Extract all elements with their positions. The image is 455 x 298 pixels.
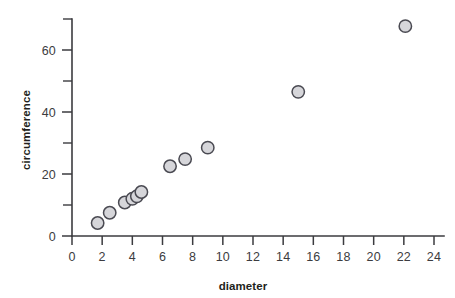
- data-point: [179, 153, 191, 165]
- x-tick-label-12: 12: [246, 250, 260, 264]
- x-tick-label-6: 6: [159, 250, 166, 264]
- x-tick-label-20: 20: [367, 250, 381, 264]
- data-point: [135, 186, 147, 198]
- y-tick-label-0: 0: [49, 230, 56, 244]
- x-tick-label-18: 18: [336, 250, 350, 264]
- data-point: [202, 141, 214, 153]
- scatter-plot-figure: 0204060 024681012141618202224 diameter c…: [0, 0, 455, 298]
- y-axis-tick-labels: 0204060: [42, 44, 56, 244]
- plot-canvas: 0204060 024681012141618202224 diameter c…: [0, 0, 455, 298]
- x-tick-label-0: 0: [68, 250, 75, 264]
- data-point: [399, 20, 411, 32]
- x-tick-label-2: 2: [99, 250, 106, 264]
- y-tick-label-60: 60: [42, 44, 56, 58]
- data-point: [104, 207, 116, 219]
- x-axis-tick-labels: 024681012141618202224: [68, 250, 441, 264]
- x-tick-label-10: 10: [216, 250, 230, 264]
- x-axis-title: diameter: [219, 280, 268, 292]
- y-tick-label-20: 20: [42, 168, 56, 182]
- x-tick-label-4: 4: [129, 250, 136, 264]
- data-point: [292, 86, 304, 98]
- x-axis-ticks: [72, 236, 434, 245]
- x-tick-label-14: 14: [276, 250, 290, 264]
- x-tick-label-16: 16: [306, 250, 320, 264]
- x-tick-label-22: 22: [397, 250, 411, 264]
- data-point-markers: [91, 20, 411, 229]
- x-tick-label-24: 24: [427, 250, 441, 264]
- y-axis-ticks: [62, 19, 72, 236]
- data-point: [91, 217, 103, 229]
- data-point: [164, 160, 176, 172]
- y-tick-label-40: 40: [42, 106, 56, 120]
- x-tick-label-8: 8: [189, 250, 196, 264]
- y-axis-title: circumference: [20, 90, 32, 170]
